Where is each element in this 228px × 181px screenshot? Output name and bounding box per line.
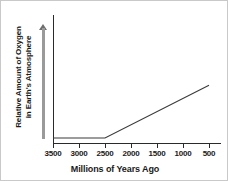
oxygen-trend-line xyxy=(53,85,209,138)
oxygen-atmosphere-chart: Relative Amount of Oxygen in Earth's Atm… xyxy=(0,0,228,181)
data-line-group xyxy=(1,1,228,181)
x-axis-title: Millions of Years Ago xyxy=(1,164,228,174)
